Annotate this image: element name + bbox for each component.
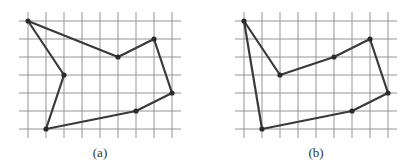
vertex-dot-a-1	[115, 54, 120, 59]
vertex-dot-a-0	[25, 18, 30, 23]
vertex-dot-a-2	[151, 36, 156, 41]
caption-a: (a)	[80, 145, 120, 161]
vertex-dot-b-5	[349, 108, 354, 113]
vertex-dot-b-2	[331, 54, 336, 59]
vertex-dot-a-3	[169, 90, 174, 95]
diagram-canvas	[0, 0, 415, 165]
vertex-dot-b-6	[259, 126, 264, 131]
vertex-dot-b-4	[385, 90, 390, 95]
vertex-dot-b-3	[367, 36, 372, 41]
vertex-dot-a-5	[43, 126, 48, 131]
vertex-dot-a-6	[61, 72, 66, 77]
vertex-dot-a-4	[133, 108, 138, 113]
vertex-dot-b-0	[241, 18, 246, 23]
vertex-dot-b-1	[277, 72, 282, 77]
caption-b: (b)	[296, 145, 336, 161]
